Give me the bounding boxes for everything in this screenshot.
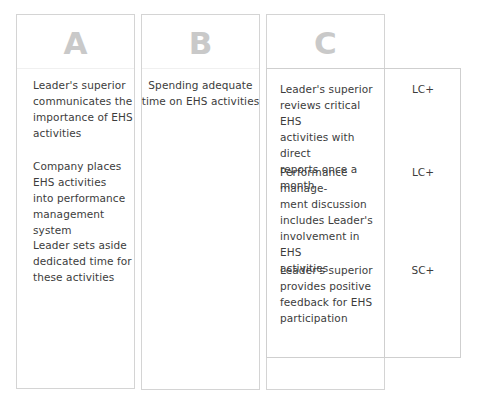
panel-b-header: B [142,15,259,69]
panel-a-item-2: Company places EHS activities into perfo… [33,158,133,238]
panel-a-item-1: Leader's superior communicates the impor… [33,77,133,141]
panel-c-header: C [267,15,384,69]
panel-c-item-2: Performance manage- ment discussion incl… [280,164,384,276]
panel-a-letter: A [64,28,88,59]
panel-b-item-1: Spending adequate time on EHS activities [141,77,260,109]
rating-2: LC+ [385,164,461,180]
rating-1: LC+ [385,81,461,97]
panel-b: B [141,14,260,390]
panel-a-header: A [17,15,134,69]
rating-3: SC+ [385,262,461,278]
panel-c-item-3: Leader's superior provides positive feed… [280,262,384,326]
panel-a-item-3: Leader sets aside dedicated time for the… [33,237,133,285]
panel-c-letter: C [314,28,337,59]
ratings-divider [384,68,385,358]
panel-b-letter: B [189,28,213,59]
